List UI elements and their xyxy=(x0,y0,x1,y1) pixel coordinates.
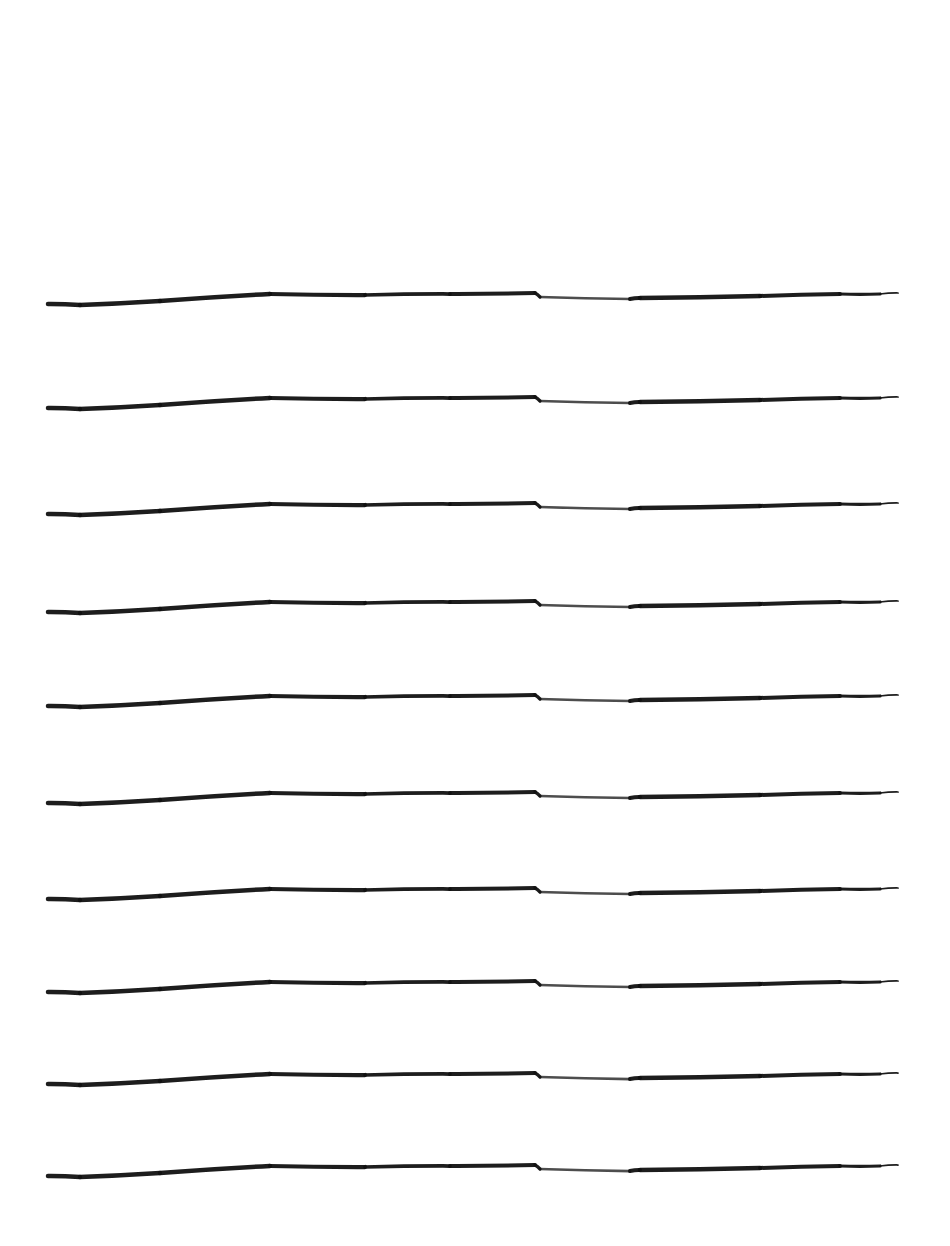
ruled-line xyxy=(48,695,898,707)
ruled-line xyxy=(48,601,898,613)
ruled-line xyxy=(48,1165,898,1177)
ruled-line xyxy=(48,981,898,993)
ruled-line xyxy=(48,792,898,804)
ruled-line xyxy=(48,503,898,515)
ruled-line xyxy=(48,888,898,900)
ruled-line xyxy=(48,293,898,305)
ruled-line xyxy=(48,397,898,409)
ruled-line xyxy=(48,1073,898,1085)
lined-paper-page xyxy=(0,0,950,1246)
ruled-lines xyxy=(0,0,950,1246)
